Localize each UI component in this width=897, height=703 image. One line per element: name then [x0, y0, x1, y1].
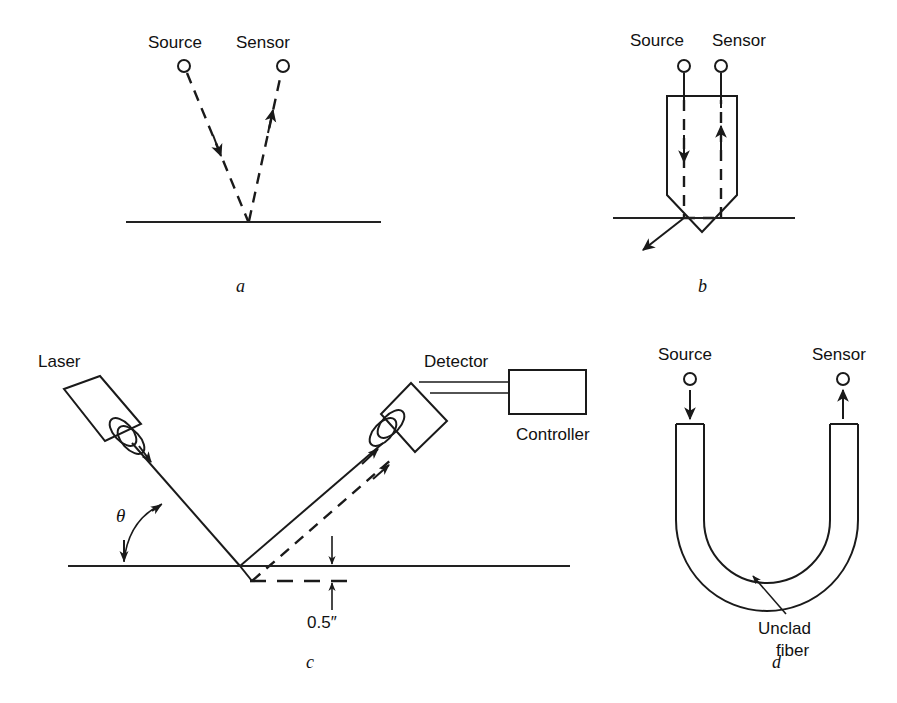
panel-b-probe-housing: [667, 96, 737, 232]
panel-a-source-emitter-icon: [178, 60, 190, 72]
panel-b-sensor-detector-icon: [715, 60, 727, 72]
panel-a-incident-arrow: [213, 135, 221, 156]
panel-a-reflected-beam: [249, 74, 281, 221]
panel-d-source-emitter-icon: [684, 373, 696, 385]
panel-c-reflected-beam-near: [240, 443, 383, 566]
panel-c-reflected-beam-far: [252, 459, 392, 581]
panel-c-reflected-near-arrow: [362, 449, 378, 464]
optical-sensing-figure: Source Sensor a Source Sensor: [0, 0, 897, 703]
panel-c-detector-label: Detector: [424, 352, 489, 371]
panel-c-controller-label: Controller: [516, 425, 590, 444]
panel-a-letter: a: [236, 276, 245, 296]
panel-c-incident-beam: [132, 443, 240, 566]
panel-c-controller-box: [509, 370, 586, 414]
panel-a: Source Sensor a: [126, 33, 381, 296]
panel-d-source-label: Source: [658, 345, 712, 364]
panel-c: Laser Detector Controller θ: [38, 352, 590, 672]
panel-b-letter: b: [698, 276, 707, 296]
panel-c-beam-to-offset-surface: [240, 566, 252, 581]
panel-d-annotation-line2: fiber: [776, 641, 809, 660]
panel-c-laser-body: [64, 376, 149, 459]
panel-c-letter: c: [306, 652, 314, 672]
panel-a-source-label: Source: [148, 33, 202, 52]
panel-b: Source Sensor b: [613, 31, 795, 296]
panel-c-laser-label: Laser: [38, 352, 81, 371]
panel-b-source-label: Source: [630, 31, 684, 50]
panel-c-theta-symbol: θ: [116, 505, 125, 526]
panel-a-sensor-label: Sensor: [236, 33, 290, 52]
panel-d: Source Sensor Unclad fiber d: [658, 345, 866, 672]
panel-d-fiber-inner-wall: [704, 424, 830, 583]
panel-b-source-emitter-icon: [678, 60, 690, 72]
panel-a-sensor-detector-icon: [277, 60, 289, 72]
panel-d-sensor-detector-icon: [837, 373, 849, 385]
panel-a-reflected-arrow: [268, 110, 273, 133]
panel-c-dimension-label: 0.5″: [307, 613, 337, 632]
panel-d-annotation-line1: Unclad: [758, 619, 811, 638]
panel-c-theta-arc: [124, 504, 162, 562]
panel-b-sensor-label: Sensor: [712, 31, 766, 50]
panel-d-letter: d: [772, 652, 782, 672]
panel-b-escaping-beam: [643, 218, 684, 250]
panel-d-sensor-label: Sensor: [812, 345, 866, 364]
figure-container: Source Sensor a Source Sensor: [0, 0, 897, 703]
